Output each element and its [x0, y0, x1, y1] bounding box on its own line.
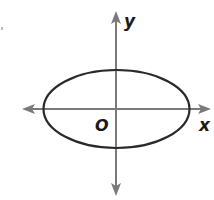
- y-axis: [111, 11, 121, 196]
- origin-label: O: [95, 116, 109, 135]
- stray-mark: [1, 27, 3, 30]
- ellipse-diagram: y x O: [0, 0, 214, 200]
- y-axis-label: y: [124, 11, 136, 31]
- x-axis-label: x: [198, 115, 211, 135]
